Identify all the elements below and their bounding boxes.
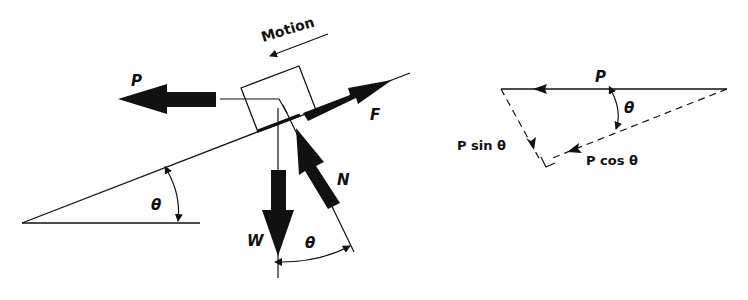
force-W-label: W [247, 232, 265, 250]
incline-angle-label: θ [151, 196, 161, 214]
vector-P-label: P [595, 68, 606, 86]
force-F-label: F [370, 106, 381, 124]
component-cos-label: P cos θ [586, 153, 638, 168]
component-diagram: P P cos θ P sin θ θ [457, 68, 727, 168]
force-N-arrow [296, 128, 340, 209]
normal-angle-arc [281, 246, 350, 262]
diagram-svg: θ Motion P F W N θ P [0, 0, 748, 300]
force-P-label: P [131, 72, 142, 90]
incline-diagram: θ Motion P F W N θ [22, 14, 410, 278]
vector-P-arrowhead [533, 84, 547, 94]
component-angle-arc [612, 92, 618, 129]
component-cos-arrowhead [567, 143, 582, 153]
force-W-arrow [262, 170, 294, 256]
force-N-label: N [337, 171, 350, 189]
incline-angle-arc [168, 172, 179, 221]
right-angle-marker [541, 157, 555, 167]
motion-label: Motion [259, 14, 316, 45]
diagram-canvas: θ Motion P F W N θ P [0, 0, 748, 300]
component-sin-label: P sin θ [457, 138, 506, 153]
normal-angle-label: θ [305, 234, 315, 252]
component-angle-label: θ [624, 99, 634, 117]
component-sin-line [501, 89, 540, 160]
component-sin-arrowhead [526, 137, 536, 150]
